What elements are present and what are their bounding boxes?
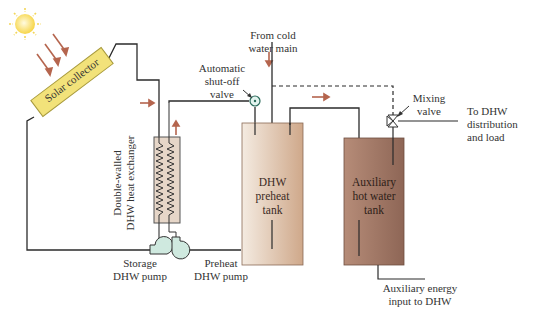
distribution-label: To DHW distribution and load: [467, 105, 518, 144]
storage-pump-label: Storage DHW pump: [105, 257, 175, 283]
shutoff-valve-label-line1: Automatic: [187, 62, 257, 75]
aux-tank-label: Auxiliary hot water tank: [344, 175, 404, 217]
sun-icon: [9, 8, 41, 40]
preheat-pump-label-line1: Preheat: [186, 257, 256, 270]
aux-energy-label: Auxiliary energy input to DHW: [370, 282, 470, 308]
solar-radiation-arrows-icon: [37, 34, 68, 75]
aux-tank-label-line1: Auxiliary: [344, 175, 404, 189]
mixing-valve-label-line2: valve: [404, 105, 454, 118]
cold-water-label-line2: water main: [238, 42, 308, 55]
preheat-pump-label: Preheat DHW pump: [186, 257, 256, 283]
storage-pump-label-line2: DHW pump: [105, 270, 175, 283]
cold-water-label: From cold water main: [238, 29, 308, 55]
heat-exchanger-label-line2: DHW heat exchanger: [124, 118, 137, 248]
shutoff-valve-label: Automatic shut-off valve: [187, 62, 257, 101]
preheat-tank-label-line3: tank: [242, 203, 303, 217]
mixing-valve-label: Mixing valve: [404, 92, 454, 118]
cold-water-label-line1: From cold: [238, 29, 308, 42]
heat-exchanger-label-line1: Double-walled: [111, 118, 124, 248]
distribution-label-line2: distribution: [467, 118, 518, 131]
preheat-tank-label: DHW preheat tank: [242, 175, 303, 217]
distribution-label-line1: To DHW: [467, 105, 518, 118]
mixing-valve-label-line1: Mixing: [404, 92, 454, 105]
shutoff-valve-label-line2: shut-off: [187, 75, 257, 88]
storage-pump-icon: [150, 237, 173, 254]
preheat-tank-label-line1: DHW: [242, 175, 303, 189]
preheat-pump-icon: [172, 237, 190, 259]
aux-energy-label-line2: input to DHW: [370, 295, 470, 308]
storage-pump-label-line1: Storage: [105, 257, 175, 270]
aux-energy-label-line1: Auxiliary energy: [370, 282, 470, 295]
aux-energy-line: [378, 265, 425, 279]
dhw-system-diagram: Solar collector Double-walled DHW heat e…: [0, 0, 536, 320]
preheat-tank-label-line2: preheat: [242, 189, 303, 203]
shutoff-valve-label-line3: valve: [187, 88, 257, 101]
aux-tank-label-line3: tank: [344, 203, 404, 217]
aux-tank-label-line2: hot water: [344, 189, 404, 203]
preheat-pump-label-line2: DHW pump: [186, 270, 256, 283]
distribution-label-line3: and load: [467, 131, 518, 144]
heat-exchanger-label: Double-walled DHW heat exchanger: [111, 118, 137, 248]
